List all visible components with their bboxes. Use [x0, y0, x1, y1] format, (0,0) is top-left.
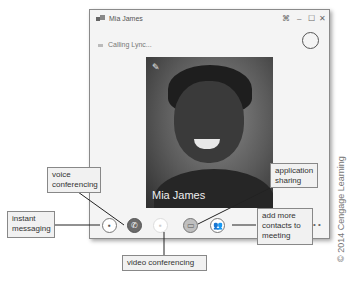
callout-instant-messaging: instant messaging	[7, 211, 55, 238]
callout-add-contacts: add more contacts to meeting	[257, 208, 313, 245]
copyright-notice: © 2014 Cengage Learning	[336, 156, 346, 262]
callout-voice-conferencing: voice conferencing	[47, 167, 101, 193]
callout-video-conferencing: video conferencing	[122, 255, 207, 271]
callout-application-sharing: application sharing	[270, 163, 318, 188]
